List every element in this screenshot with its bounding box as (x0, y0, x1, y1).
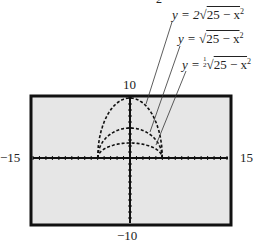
graph-canvas (0, 0, 266, 243)
